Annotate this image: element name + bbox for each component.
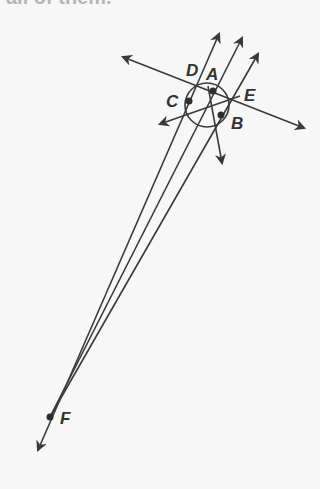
line-f-through-a xyxy=(50,38,242,417)
point-c xyxy=(186,98,193,105)
label-e: E xyxy=(244,86,256,105)
label-f: F xyxy=(60,409,71,428)
geometry-diagram: D A E C B F xyxy=(0,0,320,489)
label-c: C xyxy=(166,92,179,111)
line-a-down xyxy=(208,86,222,163)
point-b xyxy=(218,112,225,119)
label-a: A xyxy=(205,65,218,84)
point-a xyxy=(210,88,217,95)
point-f xyxy=(47,414,54,421)
label-b: B xyxy=(231,114,243,133)
line-f-through-b xyxy=(50,54,258,417)
label-d: D xyxy=(186,61,198,80)
